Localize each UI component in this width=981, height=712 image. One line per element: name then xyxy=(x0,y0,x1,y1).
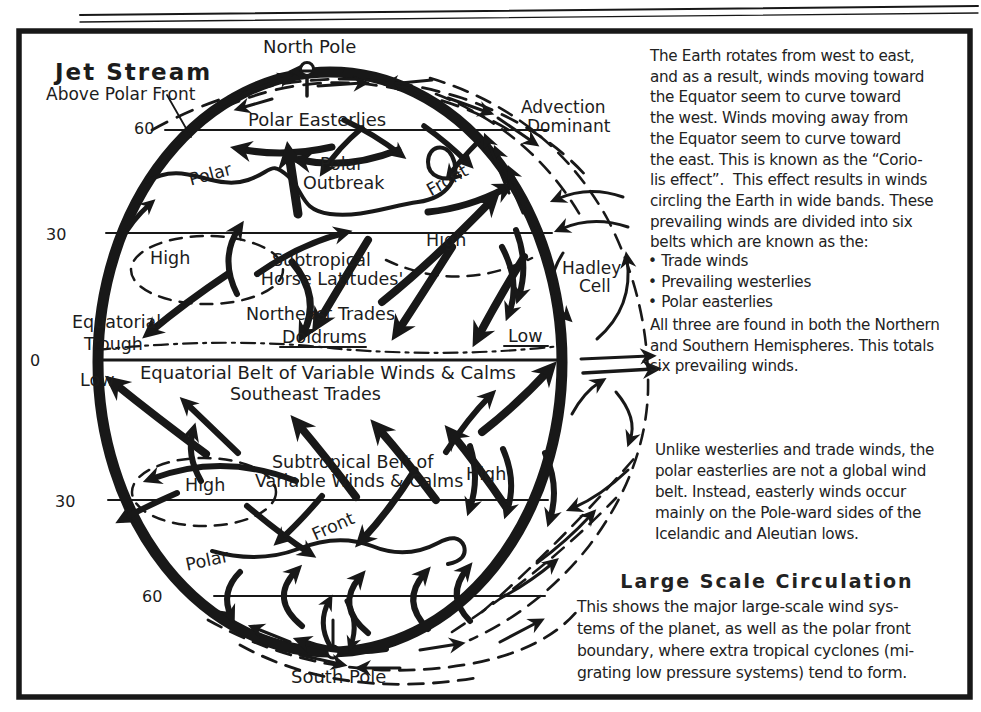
wind-circulation-figure: Jet Stream Above Polar Front North Pole … xyxy=(0,0,981,712)
polar-north-label: Polar xyxy=(187,159,235,190)
latitude-30n-label: 30 xyxy=(46,225,66,244)
page-edge-lines xyxy=(80,6,978,22)
polar-easterlies-label: Polar Easterlies xyxy=(248,109,386,130)
polar-south-label: Polar xyxy=(184,546,231,575)
polar-easterlies-paragraph: Unlike westerlies and trade winds, the p… xyxy=(655,440,934,545)
southeast-trades-label: Southeast Trades xyxy=(230,384,381,404)
high-cell-northeast-arrows xyxy=(382,200,532,313)
jet-stream-subtitle: Above Polar Front xyxy=(46,84,196,104)
equatorial-trough-label-2: Trough xyxy=(83,334,143,354)
advection-label-1: Advection xyxy=(521,97,606,117)
high-northeast-label: High xyxy=(426,230,466,250)
caption-paragraph: This shows the major large-scale wind sy… xyxy=(577,596,914,684)
subtropical-label-2: 'Horse Latitudes' xyxy=(256,269,403,289)
latitude-60n-label: 60 xyxy=(134,119,154,138)
latitude-30s-label: 30 xyxy=(55,492,75,511)
south-pole-label: South Pole xyxy=(291,666,386,687)
large-scale-circulation-heading: Large Scale Circulation xyxy=(577,570,957,592)
equatorial-belt-label: Equatorial Belt of Variable Winds & Calm… xyxy=(140,362,516,383)
list-item: • Polar easterlies xyxy=(648,292,811,313)
equatorial-trough-label-1: Equatorial xyxy=(72,312,161,332)
high-southeast-label: High xyxy=(466,464,506,484)
doldrums-label: Doldrums xyxy=(282,327,367,347)
low-west-label: Low xyxy=(80,370,114,390)
hadley-label-2: Cell xyxy=(579,276,611,296)
hadley-label-1: Hadley xyxy=(562,258,621,278)
subtropical-label-1: Subtropical xyxy=(272,250,371,270)
advection-label-2: Dominant xyxy=(527,116,611,136)
north-pole-label: North Pole xyxy=(263,36,356,57)
subtropical-belt-label-1: Subtropical Belt of xyxy=(272,452,434,472)
polar-outbreak-label-1: Polar xyxy=(320,154,364,174)
jet-stream-title: Jet Stream xyxy=(53,59,212,85)
high-northwest-label: High xyxy=(150,248,190,268)
latitude-60s-label: 60 xyxy=(142,587,162,606)
subtropical-belt-label-2: Variable Winds & Calms xyxy=(255,471,463,491)
latitude-0-label: 0 xyxy=(30,351,40,370)
northeast-trades-label: Northeast Trades xyxy=(246,304,395,324)
high-southwest-label: High xyxy=(185,475,225,495)
low-east-label: Low xyxy=(508,326,542,346)
wind-belt-list: • Trade winds • Prevailing westerlies • … xyxy=(648,251,811,313)
list-item: • Prevailing westerlies xyxy=(648,272,811,293)
list-item: • Trade winds xyxy=(648,251,811,272)
jet-stream-south-arrows xyxy=(208,610,578,684)
intro-paragraph: The Earth rotates from west to east, and… xyxy=(650,46,933,253)
intro-paragraph-end: All three are found in both the Northern… xyxy=(650,315,940,377)
polar-outbreak-label-2: Outbreak xyxy=(303,173,385,193)
